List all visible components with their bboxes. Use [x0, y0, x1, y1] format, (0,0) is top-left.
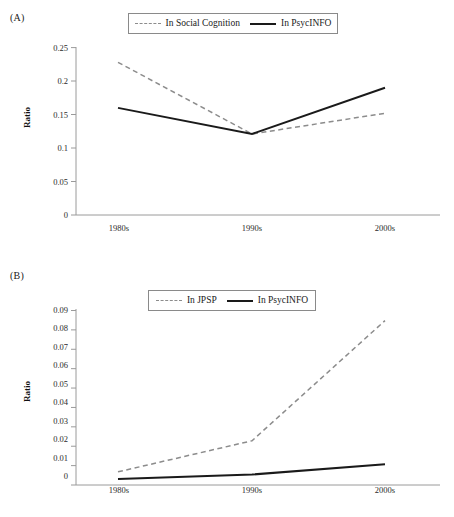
panel-b-tickmarks [71, 311, 76, 486]
panel-a-plot [0, 0, 454, 260]
panel-a-series-social-cognition [118, 62, 385, 134]
panel-a-series-psycinfo [118, 88, 385, 134]
panel-b-plot [0, 260, 454, 517]
panel-b-series-jpsp [118, 321, 385, 472]
panel-b: (B) In JPSP In PsycINFO Ratio 0.09 0.08 … [0, 260, 454, 517]
panel-b-series-psycinfo [118, 464, 385, 479]
panel-a: (A) In Social Cognition In PsycINFO Rati… [0, 0, 454, 260]
